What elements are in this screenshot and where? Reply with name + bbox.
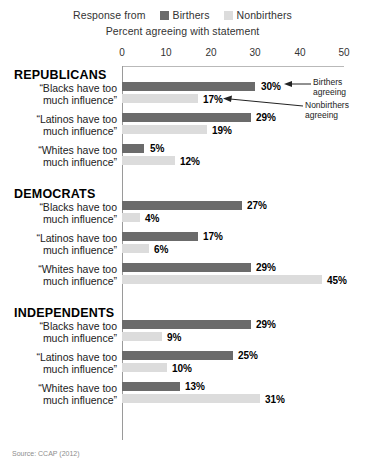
bar-democrats-latinos-nonbirthers [122,244,149,253]
row-label-line2: much influence” [9,275,117,287]
value-democrats-blacks-birthers: 27% [247,201,267,210]
row-label-line1: “Latinos have too [9,113,117,125]
bar-independents-latinos-nonbirthers [122,363,167,372]
value-independents-latinos-nonbirthers: 10% [172,364,192,373]
value-independents-whites-nonbirthers: 31% [265,395,285,404]
value-democrats-latinos-nonbirthers: 6% [154,245,168,254]
value-democrats-whites-nonbirthers: 45% [327,276,347,285]
row-label-line1: “Whites have too [9,144,117,156]
annotation-birthers-agreeing: Birthers agreeing [313,78,346,97]
value-republicans-blacks-birthers: 30% [261,82,281,91]
bar-republicans-latinos-nonbirthers [122,125,207,134]
row-label-republicans-latinos: “Latinos have too much influence” [9,113,117,137]
row-label-democrats-blacks: “Blacks have too much influence” [9,201,117,225]
annotation-nonbirthers-agreeing: Nonbirthers agreeing [305,101,349,120]
value-democrats-whites-birthers: 29% [256,263,276,272]
row-label-independents-latinos: “Latinos have too much influence” [9,351,117,375]
row-label-line1: “Latinos have too [9,351,117,363]
bar-republicans-latinos-birthers [122,113,251,122]
row-label-line1: “Blacks have too [9,201,117,213]
row-label-democrats-whites: “Whites have too much influence” [9,263,117,287]
value-republicans-whites-birthers: 5% [150,144,164,153]
value-republicans-whites-nonbirthers: 12% [180,157,200,166]
group-title-republicans: REPUBLICANS [14,68,106,82]
group-title-independents: INDEPENDENTS [14,306,114,320]
value-republicans-blacks-nonbirthers: 17% [203,95,223,104]
bar-democrats-latinos-birthers [122,232,198,241]
value-independents-whites-birthers: 13% [185,382,205,391]
row-label-line2: much influence” [9,213,117,225]
bar-independents-whites-birthers [122,382,180,391]
value-independents-blacks-birthers: 29% [256,320,276,329]
row-label-independents-whites: “Whites have too much influence” [9,382,117,406]
bar-republicans-whites-nonbirthers [122,156,175,165]
annotation-line2: agreeing [305,111,349,121]
row-label-line2: much influence” [9,94,117,106]
source-note: Source: CCAP (2012) [12,450,80,457]
value-republicans-latinos-nonbirthers: 19% [212,126,232,135]
row-label-line2: much influence” [9,156,117,168]
row-label-republicans-blacks: “Blacks have too much influence” [9,82,117,106]
row-label-line1: “Whites have too [9,263,117,275]
bar-independents-whites-nonbirthers [122,394,260,403]
bar-independents-blacks-nonbirthers [122,332,162,341]
annotation-line2: agreeing [313,88,346,98]
value-democrats-latinos-birthers: 17% [203,232,223,241]
row-label-line2: much influence” [9,332,117,344]
bar-democrats-whites-birthers [122,263,251,272]
row-label-democrats-latinos: “Latinos have too much influence” [9,232,117,256]
row-label-line1: “Latinos have too [9,232,117,244]
value-democrats-blacks-nonbirthers: 4% [145,214,159,223]
row-label-independents-blacks: “Blacks have too much influence” [9,320,117,344]
chart-plot-area: REPUBLICANS “Blacks have too much influe… [0,0,365,459]
value-republicans-latinos-birthers: 29% [256,113,276,122]
bar-democrats-blacks-birthers [122,201,242,210]
row-label-line2: much influence” [9,394,117,406]
group-title-democrats: DEMOCRATS [14,187,95,201]
row-label-line1: “Whites have too [9,382,117,394]
row-label-line2: much influence” [9,244,117,256]
bar-independents-latinos-birthers [122,351,233,360]
row-label-line1: “Blacks have too [9,320,117,332]
bar-independents-blacks-birthers [122,320,251,329]
row-label-line1: “Blacks have too [9,82,117,94]
row-label-line2: much influence” [9,363,117,375]
bar-democrats-whites-nonbirthers [122,275,322,284]
row-label-line2: much influence” [9,125,117,137]
value-independents-latinos-birthers: 25% [238,351,258,360]
row-label-republicans-whites: “Whites have too much influence” [9,144,117,168]
bar-republicans-blacks-nonbirthers [122,94,198,103]
value-independents-blacks-nonbirthers: 9% [167,333,181,342]
bar-republicans-whites-birthers [122,144,144,153]
bar-republicans-blacks-birthers [122,82,255,91]
bar-democrats-blacks-nonbirthers [122,213,140,222]
